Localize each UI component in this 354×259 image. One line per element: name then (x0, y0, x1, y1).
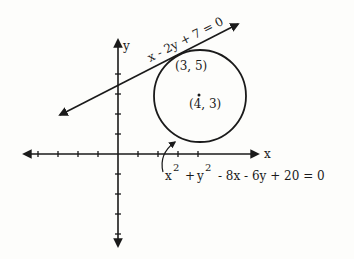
y-axis-label: y (122, 39, 130, 53)
x-axis (24, 151, 258, 157)
diagram-canvas: x y x - 2y + 7 = 0 (3, 5) (4, 3) x 2 + y… (0, 0, 354, 259)
line-equation-label: x - 2y + 7 = 0 (145, 14, 226, 64)
svg-text:2: 2 (173, 162, 179, 173)
circle-equation-label: x 2 + y 2 - 8x - 6y + 20 = 0 (165, 162, 325, 183)
svg-text:x: x (165, 169, 172, 183)
tangent-point-label: (3, 5) (175, 59, 207, 73)
x-axis-label: x (264, 147, 271, 161)
svg-text:2: 2 (205, 162, 211, 173)
y-axis (115, 40, 121, 246)
svg-text:+: + (185, 169, 195, 183)
center-label: (4, 3) (189, 97, 221, 111)
svg-text:y: y (196, 169, 204, 183)
svg-text:- 8x - 6y + 20 = 0: - 8x - 6y + 20 = 0 (218, 169, 325, 183)
